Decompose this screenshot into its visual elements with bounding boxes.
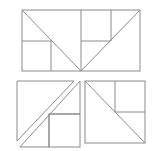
small-square bbox=[49, 114, 80, 147]
bottom-left-figure bbox=[17, 81, 80, 147]
bottom-right-figure bbox=[85, 81, 145, 143]
dissection-diagram bbox=[0, 0, 154, 151]
top-rectangle-figure bbox=[22, 10, 140, 71]
large-triangle bbox=[17, 81, 74, 141]
